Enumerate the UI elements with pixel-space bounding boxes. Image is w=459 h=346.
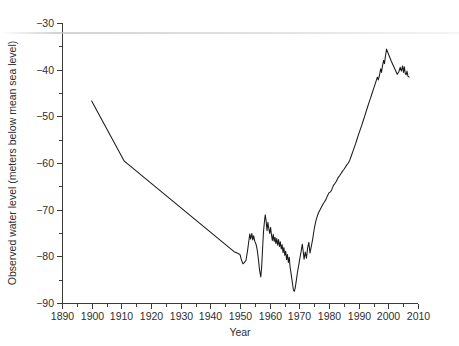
y-tick-label: −30	[36, 17, 54, 29]
y-tick-label: −50	[36, 110, 54, 122]
x-axis-title: Year	[229, 326, 251, 338]
x-tick-label: 1950	[229, 310, 253, 322]
y-axis-title: Observed water level (meters below mean …	[6, 41, 18, 286]
y-tick-label: −40	[36, 64, 54, 76]
chart-figure: −30−40−50−60−70−80−90 189019001910192019…	[0, 0, 459, 346]
x-tick-label: 1940	[199, 310, 223, 322]
x-tick-label: 1930	[170, 310, 194, 322]
data-series-group	[92, 49, 409, 291]
x-tick-label: 1960	[259, 310, 283, 322]
y-tick-label: −70	[36, 204, 54, 216]
x-tick-label: 1910	[110, 310, 134, 322]
x-tick-label: 2010	[407, 310, 431, 322]
water-level-line-chart: −30−40−50−60−70−80−90 189019001910192019…	[0, 0, 459, 346]
y-tick-label: −80	[36, 250, 54, 262]
x-tick-label: 1990	[348, 310, 372, 322]
x-tick-label: 1980	[318, 310, 342, 322]
x-tick-label: 2000	[377, 310, 401, 322]
y-tick-label: −60	[36, 157, 54, 169]
y-axis: −30−40−50−60−70−80−90	[36, 17, 62, 309]
x-tick-label: 1900	[81, 310, 105, 322]
x-tick-label: 1920	[140, 310, 164, 322]
series-line-observed-water-level	[92, 49, 409, 291]
x-tick-label: 1890	[51, 310, 75, 322]
y-tick-label: −90	[36, 297, 54, 309]
x-tick-label: 1970	[288, 310, 312, 322]
x-axis: 1890190019101920193019401950196019701980…	[51, 304, 431, 323]
